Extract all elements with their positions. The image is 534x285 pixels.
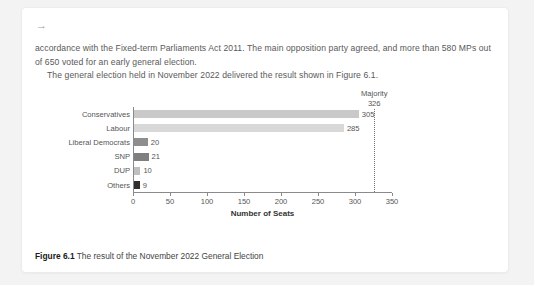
bar-chart-plot-area: Conservatives305Labour285Liberal Democra…: [22, 92, 508, 242]
figure-caption-label: Figure 6.1: [35, 251, 75, 261]
majority-threshold-line: [374, 109, 375, 192]
bar-value-label: 20: [151, 139, 159, 147]
bar-value-label: 10: [143, 167, 151, 175]
figure-caption: Figure 6.1 The result of the November 20…: [35, 251, 263, 262]
x-axis-tick: [170, 193, 171, 196]
bar-value-label: 305: [362, 111, 375, 119]
bar-value-label: 9: [143, 182, 147, 190]
x-axis-tick-label: 350: [377, 197, 407, 206]
bar-snp: [133, 153, 149, 161]
x-axis-tick: [392, 193, 393, 196]
paragraph-1: accordance with the Fixed-term Parliamen…: [35, 42, 497, 69]
x-axis-tick-label: 0: [118, 197, 148, 206]
bar-category-label: Liberal Democrats: [22, 139, 130, 147]
document-page-card: → accordance with the Fixed-term Parliam…: [22, 8, 508, 272]
majority-threshold-label: Majority326: [344, 89, 404, 108]
paragraph-2: The general election held in November 20…: [35, 69, 497, 83]
bar-category-label: Conservatives: [22, 111, 130, 119]
bar-value-label: 21: [152, 153, 160, 161]
majority-label-line-2: 326: [344, 99, 404, 109]
x-axis-line: [133, 192, 392, 193]
x-axis-tick: [244, 193, 245, 196]
x-axis-tick: [355, 193, 356, 196]
x-axis-tick-label: 50: [155, 197, 185, 206]
x-axis-tick-label: 150: [229, 197, 259, 206]
x-axis-tick: [281, 193, 282, 196]
bar-category-label: Others: [22, 182, 130, 190]
body-text-block: accordance with the Fixed-term Parliamen…: [35, 42, 497, 83]
x-axis-tick-label: 300: [340, 197, 370, 206]
y-axis-line: [133, 107, 134, 192]
bar-dup: [133, 167, 140, 175]
x-axis-tick: [318, 193, 319, 196]
figure-caption-text: The result of the November 2022 General …: [77, 251, 264, 261]
x-axis-title: Number of Seats: [133, 209, 392, 219]
bar-category-label: Labour: [22, 125, 130, 133]
bar-conservatives: [133, 110, 359, 118]
x-axis-tick-label: 250: [303, 197, 333, 206]
bar-category-label: SNP: [22, 153, 130, 161]
bar-value-label: 285: [347, 125, 360, 133]
x-axis-tick: [207, 193, 208, 196]
x-axis-tick-label: 200: [266, 197, 296, 206]
x-axis-tick-label: 100: [192, 197, 222, 206]
bar-labour: [133, 124, 344, 132]
bar-category-label: DUP: [22, 167, 130, 175]
arrow-right-icon: →: [36, 20, 52, 30]
bar-liberal-democrats: [133, 138, 148, 146]
majority-label-line-1: Majority: [344, 89, 404, 99]
figure-6-1: Conservatives305Labour285Liberal Democra…: [22, 92, 508, 242]
x-axis-tick: [133, 193, 134, 196]
